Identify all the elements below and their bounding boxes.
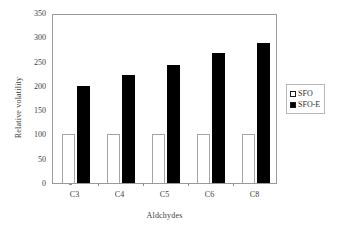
- y-tick-label: 100: [20, 131, 46, 139]
- y-tick-label: 0: [20, 180, 46, 188]
- x-tick-mark: [233, 183, 234, 186]
- x-tick-label: C6: [187, 190, 232, 200]
- legend-label: SFO-E: [298, 101, 320, 109]
- legend-item-sfo: SFO: [290, 88, 320, 99]
- bar-group: [233, 15, 278, 183]
- legend-label: SFO: [298, 90, 313, 98]
- bar-group: [98, 15, 143, 183]
- y-tick-label: 150: [20, 107, 46, 115]
- x-tick-label: C5: [142, 190, 187, 200]
- y-tick-label: 300: [20, 34, 46, 42]
- bar-sfo-e-c8: [257, 43, 270, 183]
- bar-sfo-c4: [107, 134, 120, 183]
- bar-sfo-c5: [152, 134, 165, 183]
- bar-group: [143, 15, 188, 183]
- y-tick-label: 250: [20, 59, 46, 67]
- y-tick-label: 350: [20, 10, 46, 18]
- legend-item-sfo-e: SFO-E: [290, 99, 320, 110]
- open-square-icon: [290, 91, 296, 97]
- x-tick-mark: [98, 183, 99, 186]
- plot-area: [52, 14, 277, 184]
- bar-group: [53, 15, 98, 183]
- x-tick-label: C8: [232, 190, 277, 200]
- x-axis-tick-labels: C3C4C5C6C8: [52, 190, 277, 204]
- plot-inner: [53, 15, 276, 183]
- bar-sfo-e-c5: [167, 65, 180, 183]
- y-tick-label: 200: [20, 83, 46, 91]
- bar-group: [188, 15, 233, 183]
- bar-sfo-e-c4: [122, 75, 135, 183]
- x-tick-mark: [188, 183, 189, 186]
- chart-legend: SFOSFO-E: [286, 84, 325, 114]
- y-axis-tick-labels: 050100150200250300350: [20, 14, 46, 184]
- x-tick-label: C4: [97, 190, 142, 200]
- y-tick-mark: [69, 184, 72, 185]
- bar-sfo-e-c3: [77, 86, 90, 183]
- bar-sfo-c6: [197, 134, 210, 183]
- bar-sfo-c3: [62, 134, 75, 183]
- x-axis-title: Aldchydes: [52, 211, 277, 220]
- x-tick-label: C3: [52, 190, 97, 200]
- chart-figure: Relative volatility 05010015020025030035…: [0, 0, 341, 238]
- y-tick-label: 50: [20, 156, 46, 164]
- bar-sfo-e-c6: [212, 53, 225, 183]
- filled-square-icon: [290, 102, 296, 108]
- bar-sfo-c8: [242, 134, 255, 183]
- x-tick-mark: [143, 183, 144, 186]
